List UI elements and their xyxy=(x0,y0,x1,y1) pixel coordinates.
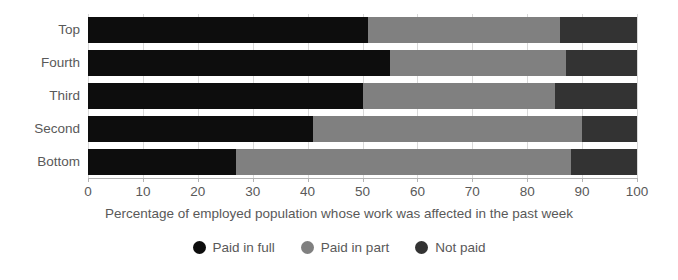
y-axis-category-label: Third xyxy=(8,83,80,109)
legend-label: Not paid xyxy=(435,240,485,255)
bar-segment[interactable] xyxy=(88,50,390,76)
x-axis-tick-mark xyxy=(253,178,254,182)
y-axis-category-label: Second xyxy=(8,116,80,142)
bar-segment[interactable] xyxy=(390,50,566,76)
stacked-bar-chart: TopFourthThirdSecondBottom 0102030405060… xyxy=(0,0,678,280)
bar-segment[interactable] xyxy=(582,116,637,142)
x-axis-tick-mark xyxy=(88,178,89,182)
x-axis-tick-mark xyxy=(582,178,583,182)
bar-segment[interactable] xyxy=(560,17,637,43)
bar-row[interactable] xyxy=(88,17,637,43)
bar-row[interactable] xyxy=(88,50,637,76)
x-axis-tick-mark xyxy=(363,178,364,182)
plot-area xyxy=(88,14,637,178)
x-axis-tick-label: 90 xyxy=(562,184,602,199)
legend-label: Paid in part xyxy=(321,240,389,255)
x-axis-tick-mark xyxy=(417,178,418,182)
bar-row[interactable] xyxy=(88,116,637,142)
bar-segment[interactable] xyxy=(566,50,637,76)
x-axis-tick-label: 80 xyxy=(507,184,547,199)
bar-segment[interactable] xyxy=(236,149,571,175)
x-axis-tick-label: 100 xyxy=(617,184,657,199)
x-axis-tick-mark xyxy=(637,178,638,182)
x-axis-title: Percentage of employed population whose … xyxy=(0,206,678,221)
gridline xyxy=(637,14,638,178)
bar-segment[interactable] xyxy=(368,17,560,43)
x-axis-tick-label: 0 xyxy=(68,184,108,199)
bar-segment[interactable] xyxy=(555,83,637,109)
x-axis-tick-label: 20 xyxy=(178,184,218,199)
bar-segment[interactable] xyxy=(88,83,363,109)
x-axis-tick-mark xyxy=(143,178,144,182)
x-axis-tick-mark xyxy=(472,178,473,182)
y-axis-category-label: Bottom xyxy=(8,149,80,175)
x-axis-tick-label: 30 xyxy=(233,184,273,199)
bar-segment[interactable] xyxy=(88,116,313,142)
bar-segment[interactable] xyxy=(313,116,582,142)
legend-item[interactable]: Paid in full xyxy=(193,240,275,255)
legend-swatch-icon xyxy=(301,241,314,254)
x-axis-tick-mark xyxy=(198,178,199,182)
y-axis-category-label: Top xyxy=(8,17,80,43)
legend-swatch-icon xyxy=(415,241,428,254)
x-axis-tick-mark xyxy=(527,178,528,182)
bar-segment[interactable] xyxy=(571,149,637,175)
legend-label: Paid in full xyxy=(213,240,275,255)
x-axis-tick-label: 70 xyxy=(452,184,492,199)
bar-segment[interactable] xyxy=(88,17,368,43)
bar-segment[interactable] xyxy=(363,83,555,109)
x-axis-tick-label: 40 xyxy=(288,184,328,199)
x-axis-tick-label: 60 xyxy=(397,184,437,199)
legend-item[interactable]: Not paid xyxy=(415,240,485,255)
x-axis-tick-label: 10 xyxy=(123,184,163,199)
bar-row[interactable] xyxy=(88,83,637,109)
x-axis-tick-label: 50 xyxy=(343,184,383,199)
y-axis-category-label: Fourth xyxy=(8,50,80,76)
x-axis-tick-mark xyxy=(308,178,309,182)
legend-swatch-icon xyxy=(193,241,206,254)
bar-row[interactable] xyxy=(88,149,637,175)
chart-legend: Paid in fullPaid in partNot paid xyxy=(0,240,678,255)
legend-item[interactable]: Paid in part xyxy=(301,240,389,255)
bar-segment[interactable] xyxy=(88,149,236,175)
